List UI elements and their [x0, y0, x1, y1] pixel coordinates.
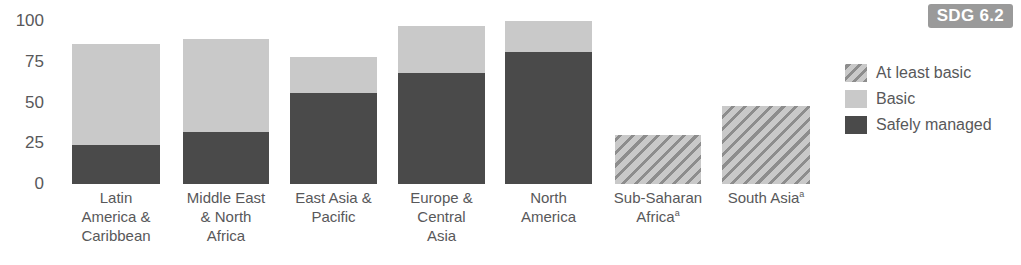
bar-segment-basic[interactable] [72, 44, 160, 145]
legend-swatch-icon [845, 90, 867, 108]
bar-segment-safely-managed[interactable] [72, 145, 160, 184]
bar-segment-safely-managed[interactable] [398, 73, 485, 184]
bar-group[interactable] [722, 106, 810, 184]
bar-group[interactable] [72, 44, 160, 184]
footnote-marker: a [799, 189, 804, 199]
bar-group[interactable] [290, 57, 377, 184]
bar-segment-basic[interactable] [290, 57, 377, 93]
y-axis-tick-100: 100 [2, 12, 44, 29]
legend-item-safely_managed[interactable]: Safely managed [845, 116, 992, 134]
x-axis-label-line: Africaa [593, 207, 723, 226]
bar-group[interactable] [615, 135, 701, 184]
y-axis-tick-50: 50 [2, 94, 44, 111]
legend-item-label: Safely managed [876, 117, 992, 133]
legend: At least basicBasicSafely managed [845, 64, 992, 142]
chart-container: SDG 6.2 1007550250 LatinAmerica &Caribbe… [0, 0, 1021, 265]
legend-swatch-icon [845, 64, 867, 82]
bar-segment-basic[interactable] [183, 39, 269, 132]
footnote-marker: a [675, 208, 680, 218]
bar-group[interactable] [183, 39, 269, 184]
bar-segment-safely-managed[interactable] [505, 52, 592, 184]
bar-segment-at-least-basic[interactable] [722, 106, 810, 184]
y-axis-tick-75: 75 [2, 53, 44, 70]
x-axis-label-line: Asia [377, 226, 507, 245]
legend-item-basic[interactable]: Basic [845, 90, 992, 108]
x-axis-label-line: South Asiaa [701, 188, 831, 207]
y-axis-tick-25: 25 [2, 134, 44, 151]
bar-segment-at-least-basic[interactable] [615, 135, 701, 184]
legend-item-label: Basic [876, 91, 915, 107]
legend-swatch-icon [845, 116, 867, 134]
bar-group[interactable] [505, 21, 592, 184]
bar-group[interactable] [398, 26, 485, 184]
bar-segment-safely-managed[interactable] [183, 132, 269, 184]
y-axis-tick-0: 0 [2, 175, 44, 192]
bar-segment-safely-managed[interactable] [290, 93, 377, 184]
x-axis-label-6: South Asiaa [701, 188, 831, 207]
bar-segment-basic[interactable] [398, 26, 485, 73]
bar-segment-basic[interactable] [505, 21, 592, 52]
legend-item-label: At least basic [876, 65, 971, 81]
x-axis-label-line: Africa [161, 226, 291, 245]
legend-item-at_least_basic[interactable]: At least basic [845, 64, 992, 82]
